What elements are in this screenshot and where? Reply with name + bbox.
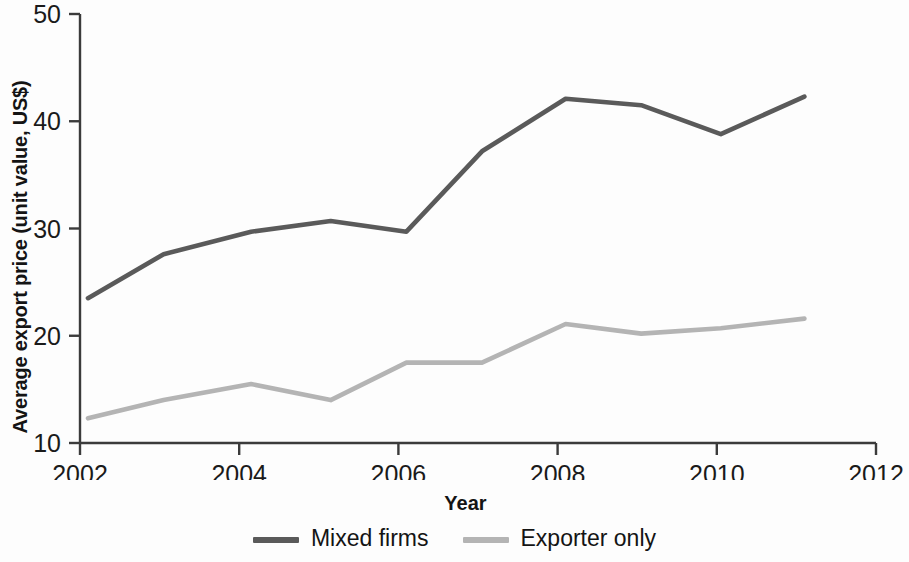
x-tick-label: 2012 [848,460,904,480]
y-tick-label: 40 [33,107,61,135]
legend-item-exporter-only[interactable]: Exporter only [463,528,657,551]
x-tick-label: 2010 [689,460,745,480]
legend-swatch-icon [253,537,299,543]
x-tick-label: 2008 [530,460,586,480]
x-tick-label: 2004 [211,460,267,480]
series-line-mixed-firms [88,97,804,299]
legend-item-label: Exporter only [521,527,657,550]
line-chart-plot: 1020304050 200220042006200820102012 [0,0,909,480]
y-tick-label: 10 [33,429,61,457]
series-line-exporter-only [88,319,804,419]
y-tick-label: 30 [33,215,61,243]
chart-page: Average export price (unit value, US$) 1… [0,0,909,562]
y-axis: 1020304050 [33,0,80,457]
legend-swatch-icon [463,537,509,543]
data-series-group [88,97,804,419]
x-axis-title: Year [0,492,909,515]
legend-item-label: Mixed firms [311,527,429,550]
legend-item-mixed-firms[interactable]: Mixed firms [253,528,429,551]
chart-legend: Mixed firmsExporter only [0,528,909,551]
x-axis-title-text: Year [444,492,486,515]
y-tick-label: 20 [33,322,61,350]
y-tick-label: 50 [33,0,61,28]
x-tick-label: 2006 [371,460,427,480]
x-tick-label: 2002 [52,460,108,480]
x-axis: 200220042006200820102012 [52,443,904,480]
